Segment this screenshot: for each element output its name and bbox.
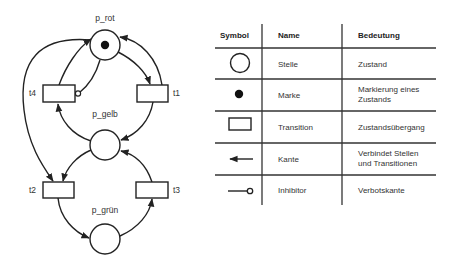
legend-table: Symbol Name Bedeutung Stelle Zustand Mar… (0, 0, 453, 267)
row-meaning: Markierung eines (358, 85, 419, 94)
token-dot-icon (235, 90, 243, 98)
row-name: Marke (278, 91, 301, 100)
row-meaning: Zustands (358, 95, 391, 104)
row-name: Kante (278, 155, 299, 164)
header-symbol: Symbol (220, 31, 249, 40)
header-meaning: Bedeutung (358, 31, 400, 40)
row-meaning: Zustandsübergang (358, 123, 425, 132)
circle-icon (231, 54, 250, 73)
row-name: Stelle (278, 60, 299, 69)
row-meaning: Verbindet Stellen (358, 149, 419, 158)
row-name: Transition (278, 123, 313, 132)
row-name: Inhibitor (278, 186, 307, 195)
row-meaning: Zustand (358, 60, 387, 69)
row-meaning: Verbotskante (358, 186, 405, 195)
header-name: Name (278, 31, 300, 40)
inhibitor-arc-icon (228, 188, 253, 193)
row-meaning: und Transitionen (358, 159, 417, 168)
rectangle-icon (229, 118, 251, 130)
